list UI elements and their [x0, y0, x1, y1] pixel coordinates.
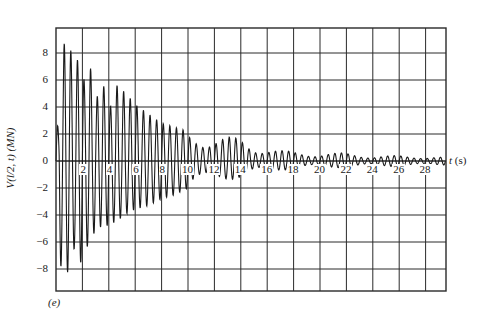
x-tick-label: 16	[260, 164, 273, 175]
y-tick-label: 6	[24, 73, 48, 85]
x-tick-label: 18	[287, 164, 300, 175]
x-tick-label: 22	[339, 164, 352, 175]
y-tick-label: −4	[24, 208, 48, 220]
x-axis-title: t (s)	[449, 154, 466, 166]
x-tick-label: 10	[181, 164, 194, 175]
x-tick-label: 4	[106, 164, 114, 175]
x-tick-label: 24	[366, 164, 379, 175]
y-tick-label: −8	[24, 262, 48, 274]
x-tick-label: 14	[234, 164, 247, 175]
x-tick-label: 12	[207, 164, 220, 175]
y-tick-label: 4	[24, 100, 48, 112]
signal-trace	[56, 44, 445, 272]
x-tick-label: 6	[132, 164, 140, 175]
y-tick-label: 2	[24, 127, 48, 139]
y-tick-label: −2	[24, 181, 48, 193]
y-tick-label: −6	[24, 235, 48, 247]
panel-label: (e)	[48, 296, 60, 308]
x-axis-unit: (s)	[452, 154, 466, 166]
x-tick-label: 28	[419, 164, 432, 175]
x-tick-label: 26	[392, 164, 405, 175]
x-tick-label: 20	[313, 164, 326, 175]
y-axis-title: V(l/2, t) (MN)	[4, 128, 16, 189]
x-tick-label: 2	[79, 164, 87, 175]
y-tick-label: 8	[24, 46, 48, 58]
chart-canvas	[0, 0, 496, 321]
y-tick-label: 0	[24, 154, 48, 166]
x-tick-label: 8	[159, 164, 167, 175]
